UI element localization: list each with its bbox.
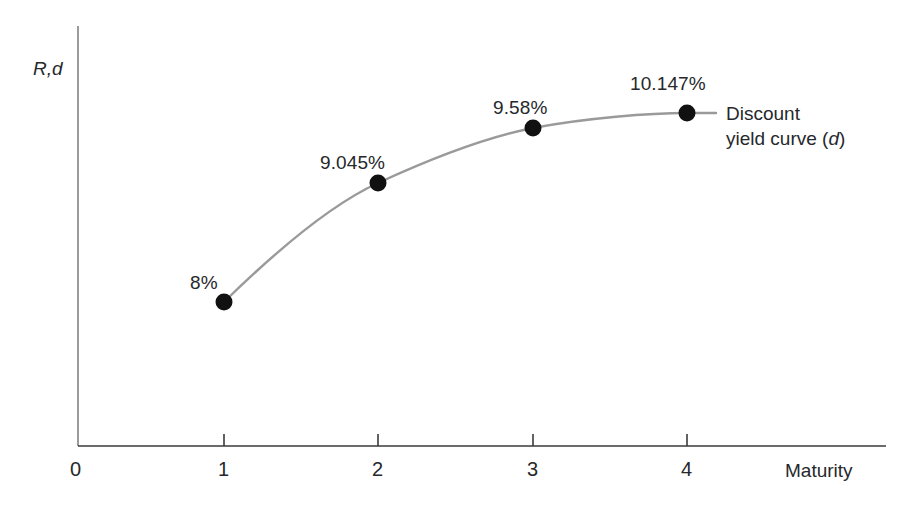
data-point-label-2: 9.045% (320, 152, 385, 174)
series-annotation-line1: Discount (726, 101, 845, 126)
series-annotation: Discount yield curve (d) (726, 101, 845, 151)
series-annotation-line2: yield curve (d) (726, 126, 845, 151)
y-axis-title: R,d (33, 58, 63, 80)
series-annotation-symbol: d (828, 128, 839, 149)
x-tick-label-2: 2 (372, 458, 383, 481)
data-point-4 (679, 105, 696, 122)
x-tick-label-1: 1 (218, 458, 229, 481)
x-tick-label-4: 4 (681, 458, 692, 481)
data-point-3 (525, 120, 542, 137)
data-point-2 (370, 175, 387, 192)
chart-plot-area (0, 0, 924, 506)
data-point-label-3: 9.58% (493, 97, 547, 119)
x-tick-label-0: 0 (70, 458, 81, 481)
x-tick-label-3: 3 (527, 458, 538, 481)
data-point-label-4: 10.147% (630, 73, 706, 95)
series-annotation-suffix: ) (839, 128, 845, 149)
data-point-1 (216, 294, 233, 311)
chart-figure: R,d 8% 9.045% 9.58% 10.147% Discount yie… (0, 0, 924, 506)
x-axis-ticks (224, 434, 687, 446)
data-point-label-1: 8% (190, 272, 218, 294)
data-point-markers (216, 105, 696, 311)
discount-yield-curve-line (224, 113, 687, 302)
x-axis-title: Maturity (785, 460, 853, 482)
series-annotation-prefix: yield curve ( (726, 128, 828, 149)
